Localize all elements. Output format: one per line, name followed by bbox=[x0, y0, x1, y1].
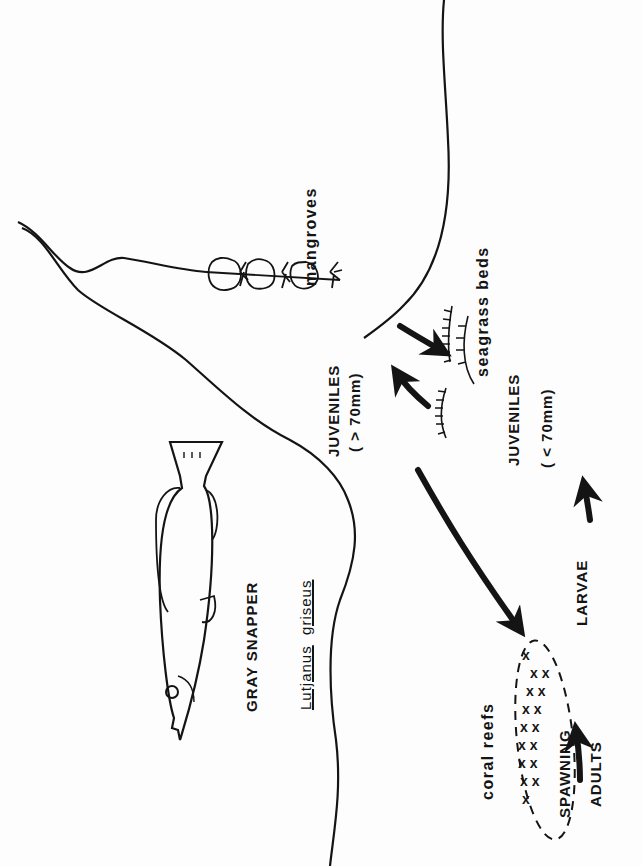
habitat-label-mangroves: mangroves bbox=[302, 187, 320, 286]
river-bank-2 bbox=[22, 228, 355, 866]
stage-size-juveniles-large: ( > 70mm) bbox=[346, 373, 363, 452]
stage-label-adults: ADULTS bbox=[587, 741, 604, 807]
scientific-species: griseus bbox=[297, 580, 314, 635]
title-scientific-name: Lutjanus griseus bbox=[297, 580, 314, 710]
fish-illustration bbox=[156, 442, 222, 740]
stage-size-juveniles-small: ( < 70mm) bbox=[538, 389, 555, 468]
scientific-genus: Lutjanus bbox=[297, 645, 314, 710]
habitat-label-seagrass: seagrass beds bbox=[474, 246, 492, 377]
title-common-name: GRAY SNAPPER bbox=[243, 582, 260, 712]
habitat-label-coral: coral reefs bbox=[479, 703, 497, 800]
mangrove-tree-icon bbox=[206, 258, 342, 290]
svg-text:x xx xx xx: x xx xx xx xx xx xx xx x bbox=[518, 647, 561, 807]
shoreline-upper bbox=[364, 0, 449, 338]
stage-label-larvae: LARVAE bbox=[573, 560, 590, 626]
stage-label-juveniles-large: JUVENILES bbox=[325, 365, 342, 457]
stage-label-juveniles-small: JUVENILES bbox=[505, 374, 522, 466]
stage-label-spawning: SPAWNING bbox=[556, 729, 573, 818]
seagrass-icon bbox=[435, 306, 474, 438]
